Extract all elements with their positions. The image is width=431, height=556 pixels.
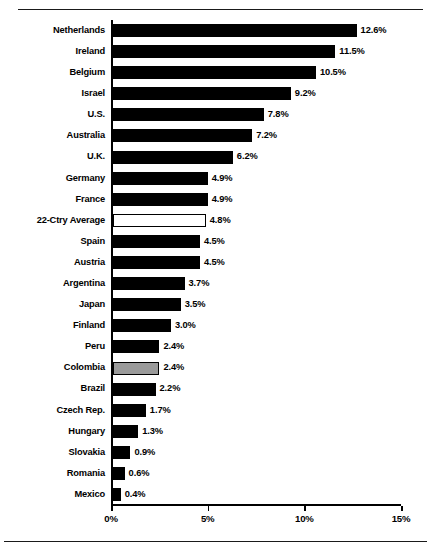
bar-row: Romania0.6% bbox=[0, 463, 431, 484]
bar-value-label: 4.9% bbox=[212, 195, 233, 204]
bar-value-label: 3.7% bbox=[189, 279, 210, 288]
bar-row: Finland3.0% bbox=[0, 315, 431, 336]
bar bbox=[113, 108, 264, 121]
bar-value-label: 11.5% bbox=[339, 47, 364, 56]
bar bbox=[113, 214, 206, 227]
bar-value-label: 4.9% bbox=[212, 174, 233, 183]
bar-row: Slovakia0.9% bbox=[0, 442, 431, 463]
bar-value-label: 2.4% bbox=[163, 363, 184, 372]
bar-and-value: 4.5% bbox=[113, 256, 225, 269]
category-label: Finland bbox=[0, 321, 105, 330]
bar-and-value: 6.2% bbox=[113, 151, 258, 164]
figure-container: Netherlands12.6%Ireland11.5%Belgium10.5%… bbox=[0, 0, 431, 556]
category-label: France bbox=[0, 195, 105, 204]
bar bbox=[113, 488, 121, 501]
bar-row: Israel9.2% bbox=[0, 83, 431, 104]
bar bbox=[113, 277, 185, 290]
bar-and-value: 2.4% bbox=[113, 340, 184, 353]
category-label: Argentina bbox=[0, 279, 105, 288]
bar-row: Colombia2.4% bbox=[0, 358, 431, 379]
bar-row: Australia7.2% bbox=[0, 125, 431, 146]
category-label: U.K. bbox=[0, 152, 105, 161]
bar-value-label: 2.4% bbox=[163, 342, 184, 351]
category-label: Colombia bbox=[0, 363, 105, 372]
category-label: Peru bbox=[0, 342, 105, 351]
bar-row: Brazil2.2% bbox=[0, 379, 431, 400]
bar-row: Netherlands12.6% bbox=[0, 20, 431, 41]
bar-value-label: 1.7% bbox=[150, 406, 171, 415]
x-axis-tick-label: 0% bbox=[104, 513, 117, 524]
bar-and-value: 3.0% bbox=[113, 319, 196, 332]
bar-value-label: 4.5% bbox=[204, 258, 225, 267]
x-axis-tick-label: 15% bbox=[392, 513, 411, 524]
category-label: 22-Ctry Average bbox=[0, 216, 105, 225]
bar bbox=[113, 467, 125, 480]
bar bbox=[113, 425, 138, 438]
bar-and-value: 1.7% bbox=[113, 404, 171, 417]
bar-row: France4.9% bbox=[0, 189, 431, 210]
bar-value-label: 10.5% bbox=[320, 68, 346, 77]
bar-and-value: 7.8% bbox=[113, 108, 289, 121]
chart-plot-area: Netherlands12.6%Ireland11.5%Belgium10.5%… bbox=[0, 18, 431, 508]
bar-row: Argentina3.7% bbox=[0, 273, 431, 294]
category-label: Germany bbox=[0, 174, 105, 183]
bar bbox=[113, 362, 159, 375]
x-axis-tick bbox=[208, 506, 210, 511]
category-label: Romania bbox=[0, 469, 105, 478]
bar-row: Belgium10.5% bbox=[0, 62, 431, 83]
bar-and-value: 4.9% bbox=[113, 193, 233, 206]
category-label: Belgium bbox=[0, 68, 105, 77]
bar-and-value: 0.4% bbox=[113, 488, 146, 501]
bar-row: Peru2.4% bbox=[0, 336, 431, 357]
bar-rows: Netherlands12.6%Ireland11.5%Belgium10.5%… bbox=[0, 20, 431, 505]
bar bbox=[113, 319, 171, 332]
bar-value-label: 4.5% bbox=[204, 237, 225, 246]
bar-and-value: 0.6% bbox=[113, 467, 149, 480]
bar-and-value: 4.9% bbox=[113, 172, 233, 185]
bar-value-label: 9.2% bbox=[295, 89, 316, 98]
bar bbox=[113, 24, 357, 37]
bar-value-label: 0.6% bbox=[129, 469, 150, 478]
bar-and-value: 1.3% bbox=[113, 425, 163, 438]
category-label: Brazil bbox=[0, 384, 105, 393]
bottom-divider-rule bbox=[4, 541, 427, 542]
category-label: Hungary bbox=[0, 427, 105, 436]
category-label: Netherlands bbox=[0, 26, 105, 35]
bar bbox=[113, 151, 233, 164]
bar-row: Czech Rep.1.7% bbox=[0, 400, 431, 421]
bar-row: 22-Ctry Average4.8% bbox=[0, 210, 431, 231]
category-label: U.S. bbox=[0, 110, 105, 119]
bar bbox=[113, 298, 181, 311]
bar-and-value: 3.5% bbox=[113, 298, 205, 311]
bar-value-label: 0.9% bbox=[134, 448, 155, 457]
bar-value-label: 6.2% bbox=[237, 152, 258, 161]
bar-and-value: 7.2% bbox=[113, 129, 277, 142]
x-axis-tick-label: 10% bbox=[295, 513, 314, 524]
bar-row: Ireland11.5% bbox=[0, 41, 431, 62]
bar-row: Austria4.5% bbox=[0, 252, 431, 273]
bar-value-label: 3.0% bbox=[175, 321, 196, 330]
bar-and-value: 4.5% bbox=[113, 235, 225, 248]
category-label: Japan bbox=[0, 300, 105, 309]
x-axis-tick-label: 5% bbox=[201, 513, 214, 524]
bar-row: Hungary1.3% bbox=[0, 421, 431, 442]
category-label: Australia bbox=[0, 131, 105, 140]
bar-row: Spain4.5% bbox=[0, 231, 431, 252]
bar bbox=[113, 66, 316, 79]
bar-and-value: 2.2% bbox=[113, 383, 180, 396]
category-label: Slovakia bbox=[0, 448, 105, 457]
bar-row: U.K.6.2% bbox=[0, 147, 431, 168]
bar bbox=[113, 340, 159, 353]
bar-row: Japan3.5% bbox=[0, 294, 431, 315]
bar-and-value: 4.8% bbox=[113, 214, 231, 227]
bar-and-value: 11.5% bbox=[113, 45, 365, 58]
bar-and-value: 0.9% bbox=[113, 446, 155, 459]
bar-value-label: 0.4% bbox=[125, 490, 146, 499]
bar bbox=[113, 172, 208, 185]
bar bbox=[113, 383, 156, 396]
x-axis-tick bbox=[111, 506, 113, 511]
bar bbox=[113, 235, 200, 248]
category-label: Mexico bbox=[0, 490, 105, 499]
top-divider-rule bbox=[18, 9, 423, 10]
bar bbox=[113, 45, 335, 58]
